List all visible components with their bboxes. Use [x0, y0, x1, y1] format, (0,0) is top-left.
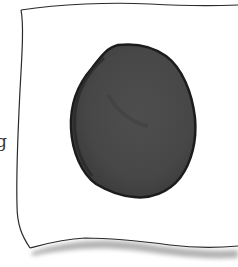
paper-with-blob-drawing — [0, 0, 238, 267]
illustration: g — [0, 0, 238, 267]
edge-text-fragment: g — [0, 131, 7, 151]
